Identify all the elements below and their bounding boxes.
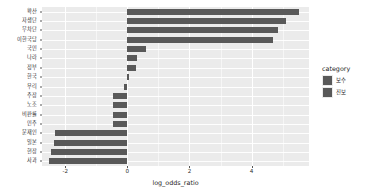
legend-swatch: [323, 76, 332, 85]
y-tick-mark: [40, 142, 42, 143]
plot-panel: [42, 7, 309, 166]
legend-label: 보수: [336, 78, 346, 83]
y-tick-mark: [40, 123, 42, 124]
y-tick-mark: [40, 77, 42, 78]
bar: [113, 93, 127, 99]
bar: [127, 55, 137, 61]
y-tick-mark: [40, 49, 42, 50]
x-axis-title: log_odds_ratio: [42, 180, 309, 186]
legend-key: [322, 75, 333, 86]
bar: [113, 102, 127, 108]
y-tick-mark: [40, 133, 42, 134]
bar: [127, 27, 278, 33]
gridline-major-y: [42, 68, 309, 69]
chart-figure: 확산자생단무차단이한국당국민나라정부한국우리주장노조비판률민주문재인일본현장사과…: [0, 0, 384, 195]
gridline-major-y: [42, 105, 309, 106]
y-axis: 확산자생단무차단이한국당국민나라정부한국우리주장노조비판률민주문재인일본현장사과: [0, 7, 42, 166]
x-tick-label: 4: [250, 169, 254, 175]
y-tick-label: 문재인: [22, 131, 37, 136]
legend-item[interactable]: 진보: [322, 87, 380, 98]
bar: [127, 65, 136, 71]
y-tick-mark: [40, 151, 42, 152]
bar: [113, 121, 127, 127]
x-tick-label: -2: [62, 169, 68, 175]
legend-items: 보수진보: [322, 75, 380, 98]
legend-item[interactable]: 보수: [322, 75, 380, 86]
bar: [49, 158, 127, 164]
gridline-major-y: [42, 49, 309, 50]
y-tick-label: 우리: [27, 84, 37, 89]
legend-swatch: [323, 88, 332, 97]
bar: [127, 74, 129, 80]
y-tick-mark: [40, 86, 42, 87]
y-tick-mark: [40, 11, 42, 12]
y-tick-mark: [40, 21, 42, 22]
legend-key: [322, 87, 333, 98]
y-tick-label: 나라: [27, 56, 37, 61]
y-tick-label: 현장: [27, 149, 37, 154]
gridline-major-y: [42, 58, 309, 59]
y-tick-mark: [40, 30, 42, 31]
y-tick-label: 주장: [27, 93, 37, 98]
gridline-major-y: [42, 87, 309, 88]
bar: [127, 18, 286, 24]
y-tick-label: 확산: [27, 9, 37, 14]
y-tick-label: 비판률: [22, 112, 37, 117]
gridline-major-y: [42, 96, 309, 97]
bar: [127, 46, 146, 52]
y-tick-label: 정부: [27, 65, 37, 70]
x-tick-label: 2: [188, 169, 192, 175]
bar: [55, 130, 127, 136]
y-tick-label: 이한국당: [17, 37, 37, 42]
bar: [127, 9, 298, 15]
y-tick-mark: [40, 161, 42, 162]
x-tick-label: 0: [126, 169, 130, 175]
bar: [54, 140, 127, 146]
y-tick-mark: [40, 39, 42, 40]
y-tick-label: 한국: [27, 75, 37, 80]
legend: category 보수진보: [322, 66, 380, 99]
gridline-major-y: [42, 115, 309, 116]
bar: [113, 112, 127, 118]
x-axis: -2024: [42, 166, 309, 180]
y-tick-label: 일본: [27, 140, 37, 145]
gridline-major-y: [42, 77, 309, 78]
bar: [51, 149, 127, 155]
y-tick-mark: [40, 67, 42, 68]
y-tick-mark: [40, 105, 42, 106]
legend-title: category: [322, 66, 380, 72]
y-tick-label: 사과: [27, 159, 37, 164]
y-tick-label: 노조: [27, 103, 37, 108]
y-tick-label: 국민: [27, 46, 37, 51]
y-tick-label: 민주: [27, 121, 37, 126]
y-tick-mark: [40, 58, 42, 59]
y-tick-mark: [40, 95, 42, 96]
legend-label: 진보: [336, 90, 346, 95]
y-tick-mark: [40, 114, 42, 115]
gridline-major-y: [42, 124, 309, 125]
y-tick-label: 무차단: [22, 28, 37, 33]
y-tick-label: 자생단: [22, 18, 37, 23]
bar: [124, 84, 128, 90]
bar: [127, 37, 273, 43]
